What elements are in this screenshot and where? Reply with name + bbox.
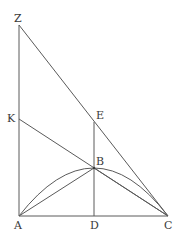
segment-bc — [94, 168, 168, 216]
label-b: B — [96, 155, 104, 168]
label-a: A — [13, 219, 23, 232]
label-c: C — [164, 219, 172, 232]
label-e: E — [96, 109, 104, 122]
geometry-diagram: Z K E B A D C — [0, 0, 184, 250]
point-b — [93, 167, 95, 169]
label-z: Z — [14, 12, 22, 25]
label-d: D — [90, 219, 99, 232]
label-k: K — [7, 112, 16, 125]
segment-ab — [19, 168, 94, 216]
